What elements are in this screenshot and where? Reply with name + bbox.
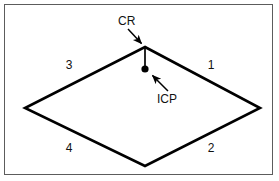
quadrant-label-1: 1 (208, 58, 215, 72)
callout-label-icp: ICP (157, 92, 177, 106)
callout-label-cr: CR (118, 14, 136, 28)
diamond-diagram: CR ICP 1 2 3 4 (0, 0, 279, 181)
quadrant-label-2: 2 (208, 141, 215, 155)
quadrant-label-4: 4 (66, 141, 73, 155)
figure-root: CR ICP 1 2 3 4 (0, 0, 279, 181)
cr-leader-arrow-icon (128, 29, 142, 44)
diamond-outline (25, 47, 260, 166)
quadrant-label-3: 3 (66, 58, 73, 72)
icp-dot-marker (141, 65, 148, 72)
